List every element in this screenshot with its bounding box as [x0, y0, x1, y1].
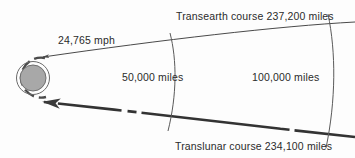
trajectory-diagram: Transearth course 237,200 miles Translun… [0, 0, 355, 158]
transearth-course-label: Transearth course 237,200 miles [176, 11, 334, 22]
moon-disc [20, 65, 46, 91]
distance-marker-label-50000: 50,000 miles [122, 72, 183, 83]
distance-marker-label-100000: 100,000 miles [252, 72, 319, 83]
spacecraft-speed-label: 24,765 mph [58, 35, 115, 46]
arc-marker-100000-miles [326, 14, 334, 148]
translunar-course-path [44, 102, 355, 137]
translunar-course-label: Translunar course 234,100 miles [175, 141, 332, 152]
moon-group [17, 58, 50, 98]
